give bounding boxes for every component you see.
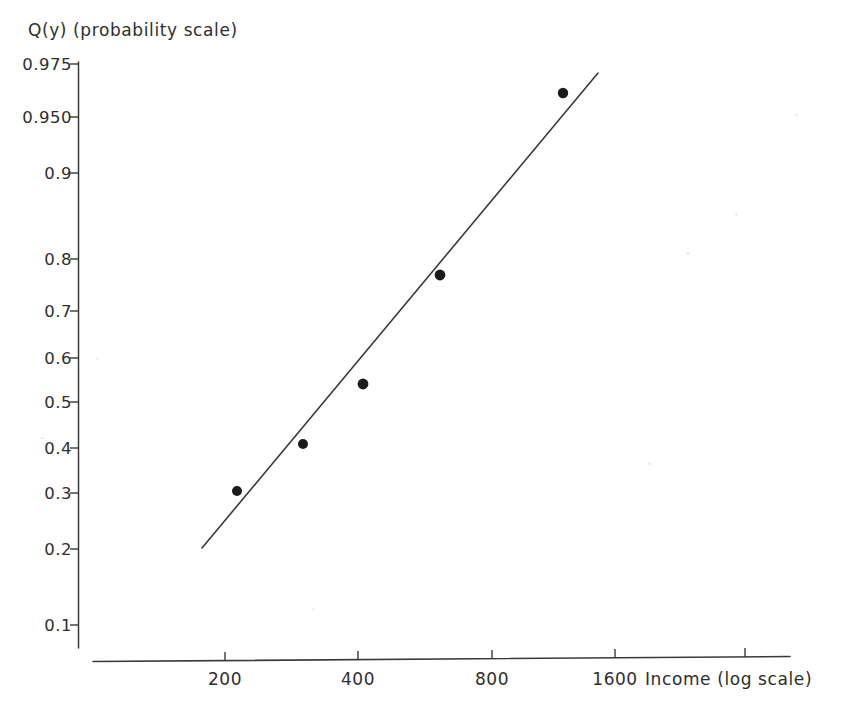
y-tick-label: 0.5 [6, 393, 72, 412]
x-axis-line [93, 657, 790, 662]
data-point [358, 379, 369, 390]
y-axis-title: Q(y) (probability scale) [28, 20, 238, 40]
data-point [558, 88, 568, 98]
fit-line [202, 73, 598, 548]
y-tick-label: 0.1 [6, 616, 72, 635]
x-axis-group [93, 648, 790, 662]
y-tick-label: 0.975 [6, 55, 72, 74]
y-tick-label: 0.3 [6, 484, 72, 503]
data-point [232, 486, 242, 496]
y-tick-label: 0.9 [6, 164, 72, 183]
x-tick-label: 400 [341, 669, 375, 689]
y-tick-label: 0.4 [6, 439, 72, 458]
x-tick-label: 1600 [592, 669, 637, 689]
y-tick-label: 0.950 [6, 108, 72, 127]
data-points [232, 88, 568, 496]
y-tick-label: 0.8 [6, 250, 72, 269]
y-tick-label: 0.2 [6, 540, 72, 559]
y-tick-label: 0.6 [6, 349, 72, 368]
data-point [298, 439, 308, 449]
chart-canvas [0, 0, 860, 715]
y-tick-label: 0.7 [6, 302, 72, 321]
data-point [435, 270, 446, 281]
x-axis-title: Income (log scale) [645, 669, 812, 689]
chart-figure: Q(y) (probability scale) Income (log sca… [0, 0, 860, 715]
x-tick-label: 200 [208, 669, 242, 689]
x-tick-label: 800 [475, 669, 509, 689]
